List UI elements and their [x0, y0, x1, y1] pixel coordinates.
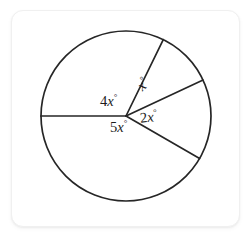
angle-label-4x-degree: °	[114, 92, 118, 102]
screenshot-root: 4x° x° 2x° 5x°	[0, 0, 251, 234]
angle-label-4x: 4x°	[100, 93, 117, 108]
angle-label-5x: 5x°	[110, 119, 127, 134]
angle-label-2x: 2x°	[139, 108, 158, 125]
circle-diagram	[0, 0, 251, 234]
angle-label-5x-degree: °	[124, 118, 128, 128]
